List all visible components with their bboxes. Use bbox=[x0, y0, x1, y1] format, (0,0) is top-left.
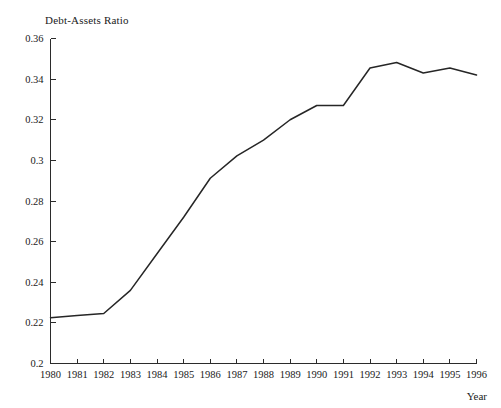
y-tick-label: 0.26 bbox=[25, 236, 43, 247]
x-tick-label: 1989 bbox=[280, 369, 301, 380]
x-tick-label: 1983 bbox=[120, 369, 141, 380]
x-tick-label: 1996 bbox=[466, 369, 487, 380]
x-axis-title: Year bbox=[467, 390, 487, 402]
chart-container: Debt-Assets Ratio 0.20.220.240.260.280.3… bbox=[0, 0, 501, 408]
line-chart-plot: 0.20.220.240.260.280.30.320.340.36 19801… bbox=[0, 0, 501, 408]
x-tick-label: 1993 bbox=[386, 369, 407, 380]
y-tick-label: 0.28 bbox=[25, 196, 43, 207]
x-tick-label: 1992 bbox=[360, 369, 381, 380]
x-tick-label: 1991 bbox=[333, 369, 354, 380]
x-tick-label: 1994 bbox=[413, 369, 435, 380]
x-tick-label: 1990 bbox=[306, 369, 327, 380]
y-tick-label: 0.32 bbox=[25, 114, 43, 125]
x-tick-label: 1988 bbox=[253, 369, 274, 380]
x-tick-label: 1980 bbox=[40, 369, 61, 380]
x-tick-label: 1986 bbox=[200, 369, 221, 380]
y-tick-label: 0.22 bbox=[25, 317, 43, 328]
y-tick-label: 0.3 bbox=[30, 155, 43, 166]
x-tick-label: 1982 bbox=[93, 369, 114, 380]
y-tick-label: 0.36 bbox=[25, 33, 43, 44]
axis-lines bbox=[51, 39, 477, 364]
x-tick-label: 1985 bbox=[173, 369, 194, 380]
x-tick-label: 1984 bbox=[147, 369, 169, 380]
data-series-line bbox=[51, 62, 477, 317]
x-tick-label: 1995 bbox=[439, 369, 460, 380]
x-tick-label: 1981 bbox=[67, 369, 88, 380]
x-tick-label: 1987 bbox=[226, 369, 247, 380]
y-tick-label: 0.2 bbox=[30, 358, 43, 369]
x-axis-ticks: 1980198119821983198419851986198719881989… bbox=[40, 359, 487, 380]
y-tick-label: 0.24 bbox=[25, 277, 44, 288]
y-tick-label: 0.34 bbox=[25, 74, 44, 85]
